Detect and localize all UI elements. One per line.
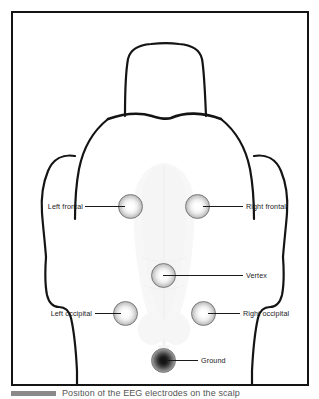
figure-caption-text: Position of the EEG electrodes on the sc… <box>62 390 240 398</box>
leader-line-vertex <box>163 275 243 276</box>
left-shoulder-outline <box>45 257 77 386</box>
snout-outline <box>125 43 206 116</box>
figure-caption-row: Position of the EEG electrodes on the sc… <box>0 390 319 399</box>
diagram-stage: Left frontal Right frontal Vertex Left o… <box>13 13 307 384</box>
leader-line-ground <box>168 360 198 361</box>
animal-head-outline-svg <box>13 13 309 386</box>
leader-line-right-occipital <box>208 313 240 314</box>
figure-frame: Left frontal Right frontal Vertex Left o… <box>11 11 309 386</box>
electrode-label-right-frontal: Right frontal <box>246 202 286 211</box>
electrode-label-vertex: Vertex <box>246 271 267 280</box>
leader-line-left-occipital <box>95 313 121 314</box>
electrode-label-left-frontal: Left frontal <box>21 202 83 211</box>
electrode-label-right-occipital: Right occipital <box>243 309 289 318</box>
leader-line-left-frontal <box>85 206 125 207</box>
figure-root: Left frontal Right frontal Vertex Left o… <box>0 0 319 399</box>
electrode-label-left-occipital: Left occipital <box>29 309 92 318</box>
leader-line-right-frontal <box>203 206 243 207</box>
brain-ghost-image <box>134 163 195 354</box>
electrode-label-ground: Ground <box>201 356 226 365</box>
caption-rule <box>11 391 56 396</box>
